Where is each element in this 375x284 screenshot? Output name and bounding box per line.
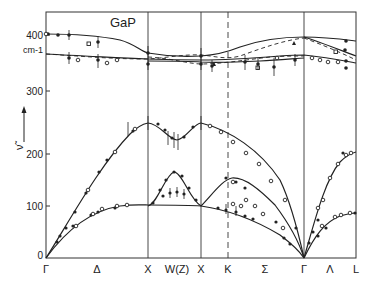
y-axis-symbol: ν̃: [13, 141, 25, 151]
ytick-200: 200: [26, 149, 43, 160]
x-axis-labels: Γ Δ X W(Z) X K Σ Γ Λ L: [43, 263, 359, 275]
chart-title: GaP: [110, 15, 136, 30]
svg-text:W(Z): W(Z): [165, 263, 189, 275]
svg-text:Δ: Δ: [93, 263, 101, 275]
ytick-300: 300: [26, 86, 43, 97]
svg-text:Σ: Σ: [262, 263, 269, 275]
y-unit-label: cm-1: [23, 45, 43, 55]
svg-text:Γ: Γ: [43, 263, 49, 275]
y-ticks: [46, 35, 50, 206]
svg-text:Λ: Λ: [326, 263, 334, 275]
phonon-dispersion-chart: 400 cm-1 300 200 100 0 ν̃ GaP Γ Δ X W(Z)…: [0, 0, 375, 284]
svg-text:Γ: Γ: [301, 263, 307, 275]
svg-text:X: X: [197, 263, 205, 275]
svg-text:K: K: [224, 263, 232, 275]
ytick-0: 0: [37, 250, 43, 261]
ytick-100: 100: [26, 201, 43, 212]
svg-text:L: L: [353, 263, 359, 275]
ytick-400: 400: [26, 30, 43, 41]
svg-text:X: X: [144, 263, 152, 275]
y-axis-arrow-icon: [22, 106, 27, 142]
